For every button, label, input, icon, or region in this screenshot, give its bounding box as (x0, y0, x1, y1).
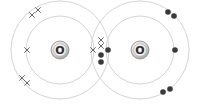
right-shared-electron-dot-icon (98, 52, 104, 58)
right-outer-electron-dot-icon (167, 86, 173, 92)
right-nucleus-symbol: O (135, 44, 144, 57)
left-inner-electron-cross-icon (25, 48, 30, 53)
right-outer-electron-dot-icon (165, 9, 171, 15)
left-shared-electron-cross-icon (99, 38, 104, 43)
right-nucleus: O (131, 41, 149, 59)
left-nucleus-symbol: O (55, 44, 64, 57)
left-outer-electron-cross-icon (30, 13, 35, 18)
left-shared-electron-cross-icon (99, 44, 104, 49)
right-inner-electron-dot-icon (172, 47, 178, 53)
right-outer-electron-dot-icon (171, 13, 177, 19)
o2-dot-cross-diagram: OO (0, 0, 199, 104)
right-inner-electron-dot-icon (105, 47, 111, 53)
right-shared-electron-dot-icon (98, 59, 104, 65)
left-outer-electron-cross-icon (25, 81, 30, 86)
electron-shells (11, 1, 189, 99)
left-nucleus: O (51, 41, 69, 59)
left-outer-electron-cross-icon (36, 8, 41, 13)
right-outer-electron-dot-icon (160, 89, 166, 95)
